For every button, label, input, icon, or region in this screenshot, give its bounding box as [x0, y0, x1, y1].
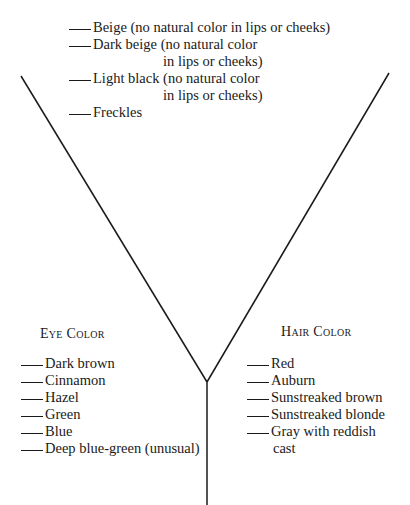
checklist-item: Hazel: [21, 389, 200, 406]
item-label: Dark brown: [45, 355, 115, 371]
item-label: Beige (no natural color in lips or cheek…: [93, 19, 330, 35]
blank-line[interactable]: [21, 365, 43, 366]
item-label: Red: [271, 355, 294, 371]
checklist-item: Freckles: [69, 104, 330, 121]
item-continuation: cast: [247, 440, 385, 457]
item-label: Cinnamon: [45, 372, 105, 388]
checklist-item: Gray with reddishcast: [247, 423, 385, 457]
blank-line[interactable]: [21, 399, 43, 400]
eye-color-checklist: Dark brown Cinnamon Hazel Green Blue Dee…: [21, 355, 200, 457]
checklist-item: Red: [247, 355, 385, 372]
blank-line[interactable]: [247, 416, 269, 417]
item-continuation: in lips or cheeks): [69, 87, 330, 104]
checklist-item: Blue: [21, 423, 200, 440]
item-label: Sunstreaked blonde: [271, 406, 385, 422]
item-label: Gray with reddish: [271, 423, 376, 439]
item-label: Hazel: [45, 389, 79, 405]
blank-line[interactable]: [69, 80, 91, 81]
hair-color-checklist: Red Auburn Sunstreaked brown Sunstreaked…: [247, 355, 385, 457]
item-label: Green: [45, 406, 80, 422]
item-label: Light black (no natural color: [93, 70, 260, 86]
checklist-item: Dark brown: [21, 355, 200, 372]
blank-line[interactable]: [21, 433, 43, 434]
blank-line[interactable]: [69, 46, 91, 47]
item-label: Dark beige (no natural color: [93, 36, 257, 52]
item-label: Blue: [45, 423, 72, 439]
item-label: Deep blue-green (unusual): [45, 440, 200, 456]
blank-line[interactable]: [247, 365, 269, 366]
blank-line[interactable]: [247, 382, 269, 383]
checklist-item: Green: [21, 406, 200, 423]
item-label: Auburn: [271, 372, 315, 388]
checklist-item: Deep blue-green (unusual): [21, 440, 200, 457]
checklist-item: Beige (no natural color in lips or cheek…: [69, 19, 330, 36]
skin-tone-checklist: Beige (no natural color in lips or cheek…: [69, 19, 330, 121]
blank-line[interactable]: [21, 416, 43, 417]
blank-line[interactable]: [21, 450, 43, 451]
item-label: Freckles: [93, 104, 142, 120]
item-continuation: in lips or cheeks): [69, 53, 330, 70]
checklist-item: Sunstreaked brown: [247, 389, 385, 406]
hair-color-heading: Hair Color: [281, 324, 351, 340]
blank-line[interactable]: [247, 399, 269, 400]
eye-color-heading: Eye Color: [40, 326, 105, 342]
item-label: Sunstreaked brown: [271, 389, 383, 405]
checklist-item: Cinnamon: [21, 372, 200, 389]
checklist-item: Auburn: [247, 372, 385, 389]
checklist-item: Sunstreaked blonde: [247, 406, 385, 423]
blank-line[interactable]: [69, 114, 91, 115]
checklist-item: Dark beige (no natural colorin lips or c…: [69, 36, 330, 70]
blank-line[interactable]: [21, 382, 43, 383]
blank-line[interactable]: [247, 433, 269, 434]
blank-line[interactable]: [69, 29, 91, 30]
checklist-item: Light black (no natural colorin lips or …: [69, 70, 330, 104]
